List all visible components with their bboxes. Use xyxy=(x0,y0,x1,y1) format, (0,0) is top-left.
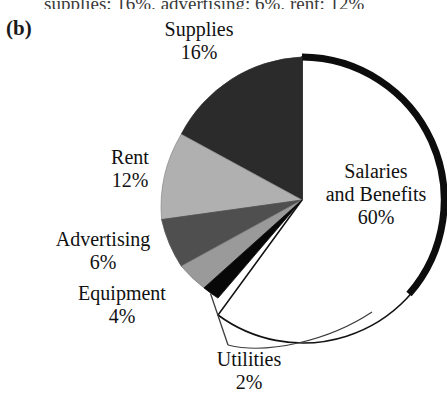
equipment-label-name: Equipment xyxy=(78,282,166,304)
supplies-label: Supplies 16% xyxy=(140,18,258,64)
utilities-label: Utilities 2% xyxy=(186,348,312,394)
salaries-label-name-line-2: and Benefits xyxy=(306,183,446,206)
utilities-label-name: Utilities xyxy=(217,348,281,370)
advertising-label-name: Advertising xyxy=(56,228,150,250)
pie-chart-figure: supplies: 16%, advertising: 6%, rent: 12… xyxy=(0,0,447,400)
supplies-label-name: Supplies xyxy=(165,18,234,40)
supplies-label-value: 16% xyxy=(140,41,258,64)
salaries-label-value: 60% xyxy=(306,206,446,229)
equipment-label-value: 4% xyxy=(52,305,192,328)
equipment-label: Equipment 4% xyxy=(52,282,192,328)
rent-label: Rent 12% xyxy=(84,146,176,192)
utilities-label-value: 2% xyxy=(186,371,312,394)
salaries-label-name-line-1: Salaries xyxy=(344,160,407,182)
advertising-label: Advertising 6% xyxy=(28,228,178,274)
advertising-label-value: 6% xyxy=(28,251,178,274)
rent-label-name: Rent xyxy=(111,146,149,168)
salaries-label: Salaries and Benefits 60% xyxy=(306,160,446,229)
rent-label-value: 12% xyxy=(84,169,176,192)
